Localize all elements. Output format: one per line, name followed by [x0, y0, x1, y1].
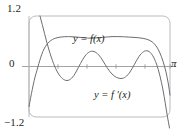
- y-axis-label-top: 1.2: [7, 2, 21, 14]
- curve-label-f: y = f(x): [73, 33, 105, 44]
- graph-canvas: [0, 0, 185, 133]
- y-axis-label-zero: 0: [9, 57, 15, 69]
- figure-container: 1.2 0 −1.2 π y = f(x) y = f ′(x): [0, 0, 185, 133]
- y-axis-label-bottom: −1.2: [4, 116, 24, 128]
- x-axis-label-pi: π: [171, 57, 177, 69]
- curve-label-f-prime: y = f ′(x): [94, 89, 131, 100]
